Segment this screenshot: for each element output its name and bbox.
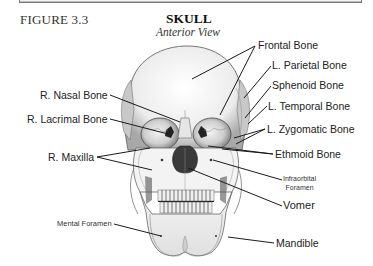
label-sphenoid-bone: Sphenoid Bone — [272, 80, 344, 91]
label-l-parietal-bone: L. Parietal Bone — [272, 60, 347, 71]
teeth — [158, 190, 214, 213]
label-mandible: Mandible — [276, 238, 319, 249]
label-r-nasal-bone: R. Nasal Bone — [40, 90, 108, 101]
label-r-maxilla: R. Maxilla — [48, 152, 94, 163]
label-r-lacrimal-bone: R. Lacrimal Bone — [27, 114, 108, 125]
label-infraorbital-foramen: Infraorbital Foramen — [283, 175, 316, 193]
label-frontal-bone: Frontal Bone — [258, 40, 318, 51]
label-l-temporal-bone: L. Temporal Bone — [268, 101, 350, 112]
label-mental-foramen: Mental Foramen — [57, 220, 112, 228]
label-infraorbital-line2: Foramen — [283, 184, 316, 193]
right-orbit — [141, 118, 179, 150]
left-orbit — [193, 118, 231, 150]
label-ethmoid-bone: Ethmoid Bone — [275, 149, 341, 160]
label-vomer: Vomer — [283, 200, 315, 211]
label-l-zygomatic-bone: L. Zygomatic Bone — [267, 124, 355, 135]
label-infraorbital-line1: Infraorbital — [283, 175, 316, 184]
